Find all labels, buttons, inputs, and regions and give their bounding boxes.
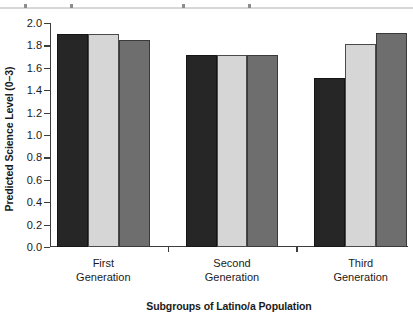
y-axis-tick-label: 0.2 <box>27 219 42 231</box>
x-axis-category-label-line: Generation <box>186 270 279 284</box>
scan-artifact-tick <box>70 4 73 8</box>
x-axis-category-label: SecondGeneration <box>186 256 279 284</box>
y-axis-tick <box>44 90 50 91</box>
y-axis-tick <box>44 247 50 248</box>
bar-chart-figure: Predicted Science Level (0–3) 0.00.20.40… <box>0 0 413 329</box>
y-axis-tick <box>44 45 50 46</box>
plot-area: 0.00.20.40.60.81.01.21.41.61.82.0 <box>50 23 408 247</box>
y-axis-tick-label: 0.0 <box>27 241 42 253</box>
y-axis-tick-label: 0.4 <box>27 196 42 208</box>
scan-artifact-line <box>0 7 413 9</box>
x-axis-category-label: ThirdGeneration <box>314 256 407 284</box>
x-axis-category-label-line: First <box>57 256 150 270</box>
x-axis-title: Subgroups of Latino/a Population <box>50 300 408 312</box>
x-axis-category-label-line: Generation <box>314 270 407 284</box>
y-axis-tick-label: 1.6 <box>27 62 42 74</box>
scan-artifact-tick <box>248 4 251 8</box>
bar <box>88 34 119 247</box>
y-axis-tick <box>44 68 50 69</box>
x-axis-group-separator-tick <box>168 247 169 252</box>
bar <box>314 78 345 247</box>
y-axis-tick <box>44 157 50 158</box>
x-axis-category-label: FirstGeneration <box>57 256 150 284</box>
y-axis-tick <box>44 180 50 181</box>
y-axis-line <box>50 23 51 247</box>
y-axis-title-text: Predicted Science Level (0–3) <box>3 67 15 212</box>
x-axis-category-label-line: Second <box>186 256 279 270</box>
bar <box>376 33 407 247</box>
y-axis-tick-label: 1.8 <box>27 39 42 51</box>
y-axis-tick-label: 1.4 <box>27 84 42 96</box>
y-axis-tick-label: 1.2 <box>27 107 42 119</box>
y-axis-tick <box>44 225 50 226</box>
y-axis-tick <box>44 135 50 136</box>
bar <box>186 55 217 247</box>
bar <box>345 44 376 247</box>
scan-artifact-tick <box>182 4 185 8</box>
bar <box>217 55 248 247</box>
y-axis-tick-label: 1.0 <box>27 129 42 141</box>
y-axis-tick <box>44 113 50 114</box>
bar <box>247 55 278 247</box>
y-axis-title: Predicted Science Level (0–3) <box>0 18 18 260</box>
x-axis-group-separator-tick <box>296 247 297 252</box>
scan-artifact-tick <box>24 4 27 8</box>
x-axis-category-label-line: Generation <box>57 270 150 284</box>
x-axis-category-label-line: Third <box>314 256 407 270</box>
y-axis-tick <box>44 202 50 203</box>
y-axis-tick-label: 2.0 <box>27 17 42 29</box>
y-axis-tick-label: 0.8 <box>27 151 42 163</box>
bar <box>119 40 150 247</box>
y-axis-tick <box>44 23 50 24</box>
bar <box>57 34 88 247</box>
y-axis-tick-label: 0.6 <box>27 174 42 186</box>
